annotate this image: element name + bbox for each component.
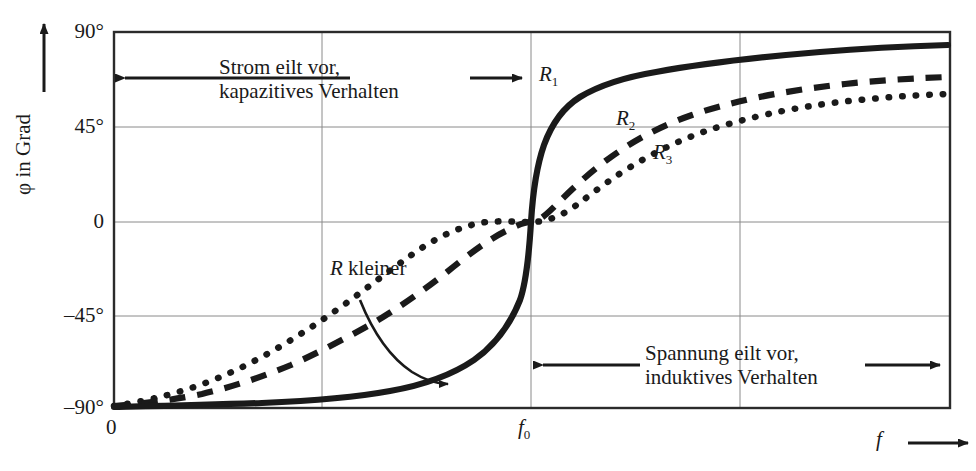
curve-label-r2-base: R [616,106,629,130]
curve-label-r3-sub: 3 [666,152,673,167]
phase-response-chart [0,0,976,471]
annotation-r-kleiner: R kleiner [330,257,406,281]
curve-label-r2-sub: 2 [629,118,636,133]
annotation-inductive: Spannung eilt vor, induktives Verhalten [645,342,818,389]
y-tick-45: 45° [34,115,104,139]
annotation-inductive-line1: Spannung eilt vor, [645,342,818,366]
y-axis-label-text: φ in Grad [11,60,36,250]
annotation-capacitive: Strom eilt vor, kapazitives Verhalten [219,56,399,103]
curve-label-r3-base: R [653,140,666,164]
annotation-inductive-line2: induktives Verhalten [645,366,818,390]
annotation-r-kleiner-base: R [330,256,343,280]
x-tick-0: 0 [106,416,117,440]
x-axis-label: f [876,428,882,452]
x-tick-f0: f0 [518,416,530,443]
curve-label-r1: R1 [539,63,558,90]
x-tick-f0-sub: 0 [524,427,531,442]
annotation-capacitive-line2: kapazitives Verhalten [219,80,399,104]
y-tick-0: 0 [34,210,104,234]
curve-label-r2: R2 [616,107,635,134]
y-tick-90: 90° [34,20,104,44]
figure-canvas: 90° 45° 0 –45° –90° φ in Grad 0 f0 f R1 … [0,0,976,471]
annotation-capacitive-line1: Strom eilt vor, [219,56,399,80]
annotation-r-kleiner-rest: kleiner [343,256,407,280]
y-tick-minus45: –45° [26,304,104,328]
y-axis-label: φ in Grad [6,60,40,250]
curve-label-r1-base: R [539,62,552,86]
y-tick-minus90: –90° [26,396,104,420]
curve-label-r3: R3 [653,141,672,168]
curve-label-r1-sub: 1 [552,74,559,89]
